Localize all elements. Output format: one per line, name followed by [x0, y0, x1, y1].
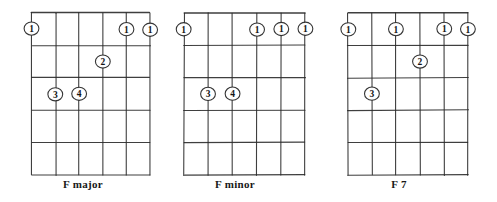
finger-marker-4-string-4-fret-3: 4 [72, 87, 87, 100]
finger-marker-1-string-4-fret-1: 1 [389, 23, 404, 36]
finger-number: 4 [230, 89, 235, 99]
chord-name-label: F minor [152, 178, 318, 190]
finger-number: 1 [303, 24, 308, 34]
fretboard-grid: 111123 [316, 0, 482, 180]
finger-number: 3 [370, 89, 375, 99]
finger-number: 1 [279, 24, 284, 34]
finger-marker-1-string-2-fret-1: 1 [274, 22, 289, 35]
finger-number: 4 [77, 89, 82, 99]
finger-marker-1-string-1-fret-1: 1 [461, 23, 476, 36]
finger-marker-1-string-1-fret-1: 1 [298, 22, 313, 35]
finger-marker-1-string-3-fret-1: 1 [250, 23, 265, 36]
finger-number: 1 [394, 25, 399, 35]
fretboard-grid: 111134 [152, 0, 318, 180]
finger-number: 3 [206, 89, 211, 99]
finger-number: 1 [442, 24, 447, 34]
finger-number: 1 [181, 25, 186, 35]
chord-diagram-f-major: 111234F major [0, 0, 166, 202]
chord-diagram-f-seven: 111123F 7 [316, 0, 482, 202]
chord-chart-sheet: 111234F major111134F minor111123F 7 [0, 0, 497, 202]
finger-marker-1-string-6-fret-1: 1 [341, 23, 356, 36]
finger-marker-1-string-2-fret-1: 1 [437, 22, 452, 35]
chord-name-label: F 7 [316, 178, 482, 190]
finger-marker-3-string-5-fret-3: 3 [365, 87, 380, 100]
finger-marker-3-string-5-fret-3: 3 [48, 88, 63, 101]
chord-name-label: F major [0, 178, 166, 190]
chord-diagram-f-minor: 111134F minor [152, 0, 318, 202]
finger-number: 1 [346, 25, 351, 35]
finger-number: 2 [100, 57, 105, 67]
finger-number: 2 [418, 57, 423, 67]
finger-number: 1 [255, 25, 260, 35]
finger-marker-1-string-6-fret-1: 1 [24, 22, 39, 35]
finger-marker-4-string-4-fret-3: 4 [225, 87, 240, 100]
fretboard-grid: 111234 [0, 0, 166, 180]
finger-marker-1-string-2-fret-1: 1 [119, 23, 134, 36]
finger-number: 1 [466, 25, 471, 35]
finger-marker-3-string-5-fret-3: 3 [201, 87, 216, 100]
finger-number: 1 [29, 24, 34, 34]
finger-number: 3 [53, 90, 58, 100]
finger-marker-1-string-6-fret-1: 1 [176, 23, 191, 36]
finger-number: 1 [124, 25, 129, 35]
finger-marker-2-string-3-fret-2: 2 [95, 55, 110, 68]
finger-marker-2-string-3-fret-2: 2 [413, 55, 428, 68]
